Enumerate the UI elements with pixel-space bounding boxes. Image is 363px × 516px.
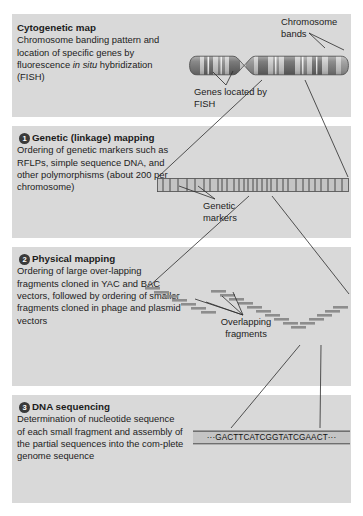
dna-sequence-text: ···GACTTCATCGGTATCGAACT··· xyxy=(193,430,350,445)
figure-canvas: Cytogenetic map Chromosome banding patte… xyxy=(0,0,363,516)
dna-sequence-strip: ···GACTTCATCGGTATCGAACT··· xyxy=(193,430,350,445)
